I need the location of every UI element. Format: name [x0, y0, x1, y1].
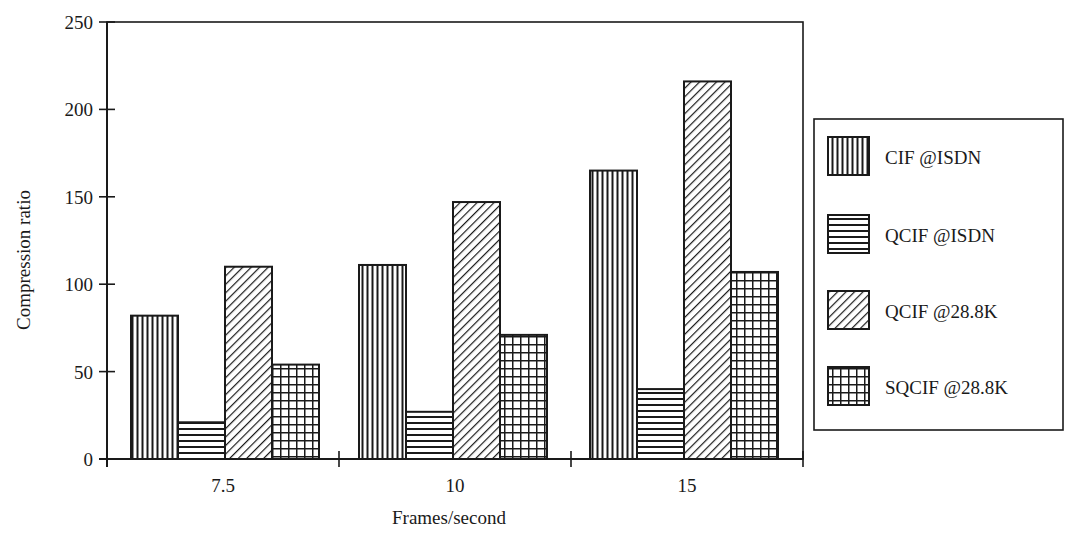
- bar-cif-isdn-10: [359, 265, 406, 459]
- legend-label: SQCIF @28.8K: [885, 377, 1008, 398]
- x-tick-label: 15: [678, 475, 697, 496]
- legend-label: QCIF @28.8K: [885, 301, 998, 322]
- bar-series-group: [131, 81, 778, 459]
- x-tick-label: 7.5: [211, 475, 235, 496]
- y-axis: 050100150200250: [65, 12, 116, 470]
- y-axis-title: Compression ratio: [13, 190, 34, 330]
- x-axis-title: Frames/second: [392, 507, 506, 528]
- bar-sqcif-28-8k-7-5: [272, 365, 319, 459]
- x-tick-label: 10: [446, 475, 465, 496]
- bar-qcif-isdn-7-5: [178, 422, 225, 459]
- y-tick-label: 50: [74, 362, 93, 383]
- bar-qcif-isdn-10: [406, 412, 453, 459]
- y-tick-label: 100: [65, 274, 94, 295]
- bar-chart: 050100150200250 7.51015 CIF @ISDNQCIF @I…: [0, 0, 1083, 542]
- bar-sqcif-28-8k-10: [500, 335, 547, 459]
- bar-qcif-isdn-15: [637, 389, 684, 459]
- y-tick-label: 250: [65, 12, 94, 33]
- legend-label: CIF @ISDN: [885, 147, 981, 168]
- bar-cif-isdn-15: [590, 171, 637, 459]
- y-tick-label: 200: [65, 99, 94, 120]
- legend-swatch: [828, 291, 869, 329]
- legend-swatch: [828, 367, 869, 405]
- bar-cif-isdn-7-5: [131, 316, 178, 459]
- bar-sqcif-28-8k-15: [731, 272, 778, 459]
- y-tick-label: 0: [84, 449, 94, 470]
- legend-swatch: [828, 137, 869, 175]
- bar-qcif-28-8k-7-5: [225, 267, 272, 459]
- y-tick-label: 150: [65, 187, 94, 208]
- legend: CIF @ISDNQCIF @ISDNQCIF @28.8KSQCIF @28.…: [814, 119, 1063, 430]
- bar-qcif-28-8k-15: [684, 81, 731, 459]
- legend-label: QCIF @ISDN: [885, 225, 995, 246]
- legend-swatch: [828, 215, 869, 253]
- bar-qcif-28-8k-10: [453, 202, 500, 459]
